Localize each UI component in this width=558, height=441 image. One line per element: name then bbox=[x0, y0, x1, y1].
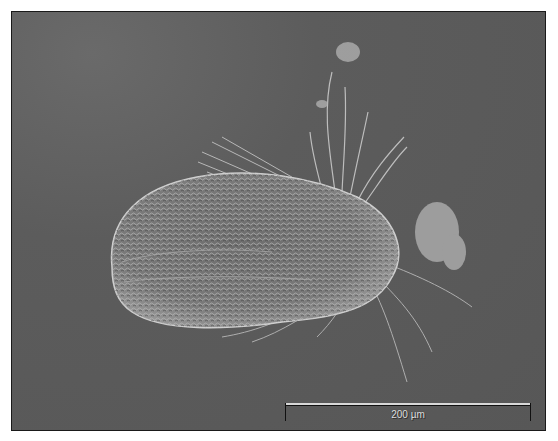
scale-bar-label: 200 µm bbox=[285, 409, 531, 420]
micrograph-frame: 200 µm bbox=[11, 11, 546, 431]
scale-bar: 200 µm bbox=[285, 403, 531, 423]
scale-bar-line bbox=[285, 403, 531, 406]
organism-body bbox=[112, 173, 399, 328]
organism-illustration bbox=[12, 12, 546, 431]
